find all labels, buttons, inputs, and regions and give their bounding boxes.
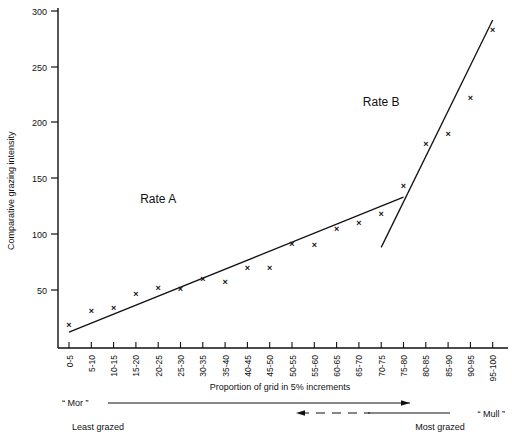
y-tick-label-200: 200	[32, 118, 47, 128]
data-point-75-80: ×	[401, 181, 406, 191]
trend-line-group	[69, 20, 493, 332]
x-tick-label-50-55: 50-55	[288, 355, 298, 377]
data-point-95-100: ×	[490, 25, 495, 35]
data-point-65-70: ×	[356, 218, 361, 228]
annotation-rate-b: Rate B	[363, 95, 400, 109]
mor-arrow-head-icon	[401, 400, 410, 406]
y-tick-label-300: 300	[32, 7, 47, 17]
x-tick-label-30-35: 30-35	[198, 355, 208, 377]
data-point-85-90: ×	[445, 129, 450, 139]
x-tick-label-80-85: 80-85	[421, 355, 431, 377]
data-point-5-10: ×	[89, 306, 94, 316]
data-point-20-25: ×	[156, 283, 161, 293]
x-axis-title: Proportion of grid in 5% increments	[210, 382, 351, 392]
data-point-50-55: ×	[289, 239, 294, 249]
x-tick-label-25-30: 25-30	[176, 355, 186, 377]
mull-arrow-head-icon	[296, 410, 305, 416]
mull-label: “ Mull ”	[478, 409, 506, 419]
x-tick-label-95-100: 95-100	[488, 355, 498, 382]
annotation-group: Rate ARate B	[140, 95, 399, 206]
y-tick-label-150: 150	[32, 174, 47, 184]
data-point-90-95: ×	[468, 93, 473, 103]
y-tick-label-250: 250	[32, 63, 47, 73]
data-point-55-60: ×	[312, 240, 317, 250]
x-tick-label-10-15: 10-15	[109, 355, 119, 377]
data-point-10-15: ×	[111, 303, 116, 313]
x-tick-label-15-20: 15-20	[131, 355, 141, 377]
y-tick-label-100: 100	[32, 230, 47, 240]
y-tick-label-50: 50	[37, 286, 47, 296]
x-tick-label-5-10: 5-10	[87, 355, 97, 372]
data-point-40-45: ×	[245, 263, 250, 273]
trend-line-rate-b	[381, 20, 493, 247]
most-grazed-label: Most grazed	[415, 422, 465, 432]
y-axis-title: Comparative grazing intensity	[6, 131, 16, 250]
annotation-rate-a: Rate A	[140, 192, 176, 206]
x-tick-label-60-65: 60-65	[332, 355, 342, 377]
x-tick-label-0-5: 0-5	[65, 355, 75, 368]
data-point-45-50: ×	[267, 263, 272, 273]
x-tick-label-75-80: 75-80	[399, 355, 409, 377]
data-point-60-65: ×	[334, 224, 339, 234]
x-tick-label-70-75: 70-75	[377, 355, 387, 377]
data-point-25-30: ×	[178, 284, 183, 294]
data-point-30-35: ×	[200, 274, 205, 284]
data-point-group: ××××××××××××××××××××	[66, 25, 495, 329]
data-point-15-20: ×	[133, 289, 138, 299]
least-grazed-label: Least grazed	[72, 422, 124, 432]
x-tick-label-85-90: 85-90	[444, 355, 454, 377]
data-point-0-5: ×	[66, 320, 71, 330]
grazing-intensity-scatter-chart: 300 250 200 150 100 50 Comparative grazi…	[0, 0, 515, 440]
mor-label: “ Mor ”	[62, 398, 89, 408]
data-point-80-85: ×	[423, 139, 428, 149]
data-point-35-40: ×	[222, 277, 227, 287]
x-tick-label-55-60: 55-60	[310, 355, 320, 377]
x-tick-label-45-50: 45-50	[265, 355, 275, 377]
data-point-70-75: ×	[379, 209, 384, 219]
x-tick-label-40-45: 40-45	[243, 355, 253, 377]
x-tick-label-35-40: 35-40	[221, 355, 231, 377]
x-tick-label-20-25: 20-25	[154, 355, 164, 377]
trend-line-rate-a	[69, 197, 404, 332]
chart-figure: 300 250 200 150 100 50 Comparative grazi…	[0, 0, 515, 440]
x-tick-label-90-95: 90-95	[466, 355, 476, 377]
x-tick-label-65-70: 65-70	[354, 355, 364, 377]
